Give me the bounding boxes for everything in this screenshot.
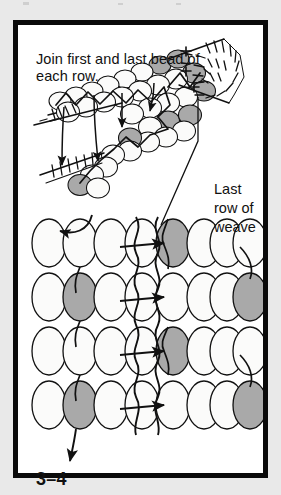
figure-artwork	[18, 25, 263, 473]
side-label-line-3: weave	[214, 219, 256, 235]
figure-stage: Join first and last bead of each row. La…	[0, 0, 281, 495]
thread-exit-arrow	[70, 429, 76, 461]
grid-row	[32, 273, 263, 321]
text-smudge-3	[176, 3, 181, 5]
figure-number: 3–4	[36, 469, 67, 490]
grid-row	[32, 381, 263, 429]
bead-grid	[32, 215, 263, 461]
side-label-line-1: Last	[214, 181, 241, 197]
grid-row	[32, 327, 263, 375]
last-row-of-weave-label: Last row of weave	[214, 180, 281, 237]
text-smudge-1	[23, 2, 29, 5]
text-smudge-2	[118, 3, 123, 5]
side-label-line-2: row of	[214, 200, 254, 216]
figure-caption: Join first and last bead of each row.	[36, 51, 211, 85]
figure-frame: Join first and last bead of each row. La…	[13, 20, 268, 478]
